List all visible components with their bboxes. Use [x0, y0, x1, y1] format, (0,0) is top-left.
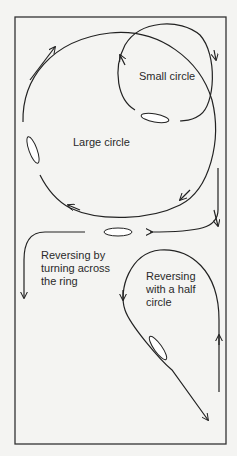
label-line: Reversing — [146, 270, 196, 283]
reverse-across-label: Reversing by turning across the ring — [41, 249, 110, 288]
label-line: Reversing by — [41, 249, 110, 262]
large-circle-label: Large circle — [73, 136, 130, 149]
label-line: with a half — [146, 283, 196, 296]
reverse-half-label: Reversing with a half circle — [146, 270, 196, 309]
label-line: circle — [146, 296, 196, 309]
label-line: turning across — [41, 262, 110, 275]
label-line: the ring — [41, 275, 110, 288]
arena-diagram — [0, 0, 237, 456]
small-circle-label: Small circle — [139, 70, 195, 83]
horse-icon — [24, 112, 169, 362]
